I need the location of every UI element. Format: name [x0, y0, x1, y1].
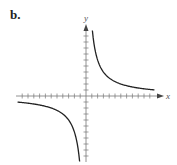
- x-axis-arrow-icon: [157, 94, 164, 99]
- x-axis-label: x: [165, 91, 170, 101]
- y-axis-arrow-icon: [84, 24, 89, 31]
- curve-branch-quadrant-3: [18, 102, 80, 161]
- hyperbola-plot: x y: [0, 0, 177, 165]
- y-axis-label: y: [83, 13, 88, 23]
- curve-branch-quadrant-1: [92, 31, 154, 90]
